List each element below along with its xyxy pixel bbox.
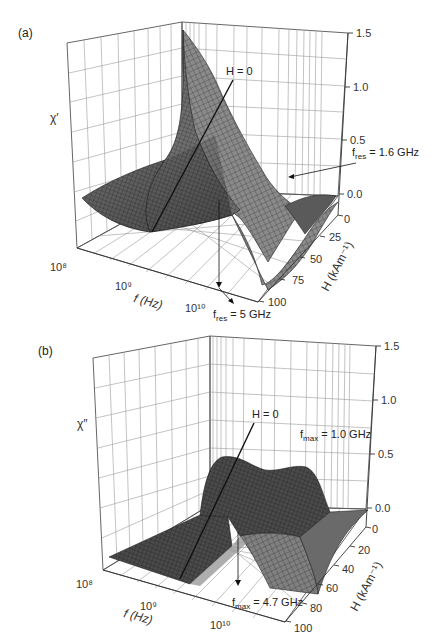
svg-text:10¹⁰: 10¹⁰	[185, 302, 206, 314]
svg-text:H = 0: H = 0	[226, 65, 253, 77]
z-axis: 1.5 1.0 0.5 0.0	[338, 27, 371, 215]
chart-panel-b: (b)	[0, 322, 433, 642]
z-axis-label: χ″	[77, 417, 88, 431]
svg-text:0.5: 0.5	[378, 448, 393, 460]
svg-text:fmax = 1.0 GHz: fmax = 1.0 GHz	[300, 428, 371, 443]
svg-text:25: 25	[329, 231, 341, 243]
svg-text:1.5: 1.5	[356, 27, 371, 39]
svg-text:0.0: 0.0	[375, 502, 390, 514]
svg-text:80: 80	[310, 602, 322, 614]
svg-text:fmax = 4.7 GHz: fmax = 4.7 GHz	[232, 596, 303, 611]
svg-text:100: 100	[294, 622, 312, 634]
svg-text:f (Hz): f (Hz)	[132, 291, 164, 312]
svg-text:0: 0	[372, 523, 378, 535]
svg-text:0.5: 0.5	[350, 134, 365, 146]
svg-text:100: 100	[268, 296, 286, 308]
svg-text:50: 50	[310, 253, 322, 265]
svg-text:fres = 1.6 GHz: fres = 1.6 GHz	[352, 146, 419, 161]
fres-low-annotation: fres = 1.6 GHz	[288, 146, 419, 179]
svg-text:fres = 5 GHz: fres = 5 GHz	[213, 308, 271, 322]
svg-text:10¹⁰: 10¹⁰	[210, 619, 231, 631]
fmax-low-annotation: fmax = 1.0 GHz	[300, 428, 371, 443]
svg-text:0: 0	[344, 213, 350, 225]
chart-panel-a: (a)	[0, 0, 433, 322]
surface-plot-b: H = 0 fmax = 1.0 GHz 1.5 1.0 0.5 0.0 χ″ …	[0, 322, 433, 642]
svg-text:10⁸: 10⁸	[50, 261, 67, 273]
svg-text:H (kAm⁻¹): H (kAm⁻¹)	[318, 239, 356, 293]
svg-text:60: 60	[326, 582, 338, 594]
svg-text:10⁹: 10⁹	[115, 280, 132, 292]
svg-text:0.0: 0.0	[347, 188, 362, 200]
svg-text:1.5: 1.5	[384, 340, 399, 352]
svg-text:1.0: 1.0	[381, 394, 396, 406]
svg-text:H = 0: H = 0	[252, 408, 279, 420]
svg-text:1.0: 1.0	[353, 81, 368, 93]
chi-double-prime-surface	[109, 457, 368, 594]
surface-plot-a: H = 0 1.5 1.0 0.5 0.0 χ′ fres = 1.6 GHz	[0, 0, 433, 322]
svg-text:40: 40	[342, 563, 354, 575]
z-axis: 1.5 1.0 0.5 0.0	[366, 340, 399, 527]
f-axis: 10⁸ 10⁹ 10¹⁰ f (Hz)	[50, 248, 258, 314]
svg-text:75: 75	[292, 274, 304, 286]
svg-text:10⁸: 10⁸	[76, 578, 93, 590]
svg-text:20: 20	[358, 544, 370, 556]
z-axis-label: χ′	[50, 111, 59, 125]
